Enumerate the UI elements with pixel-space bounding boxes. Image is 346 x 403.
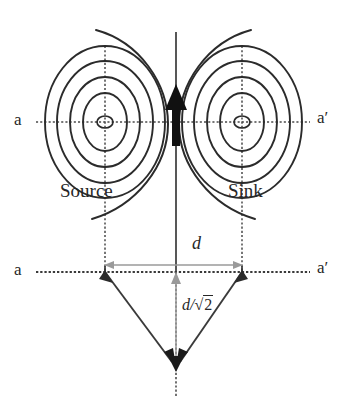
axis-label-left-top: a <box>14 110 22 130</box>
axis-label-right-top: a′ <box>317 108 328 128</box>
convergence-line-left <box>105 272 172 362</box>
radicand: 2 <box>203 295 213 313</box>
diagram-canvas: a a′ a a′ Source Sink d d/ √2 <box>0 0 346 403</box>
depth-dim-head <box>171 272 181 284</box>
depth-radical-group: √2 <box>194 296 213 314</box>
vertex-marker <box>168 356 184 372</box>
source-label: Source <box>60 180 113 202</box>
convergence-line-right <box>180 272 242 362</box>
axis-label-right-bottom: a′ <box>317 258 328 278</box>
sink-label: Sink <box>228 180 263 202</box>
convergence-lines <box>105 272 242 362</box>
diagram-svg <box>0 0 346 403</box>
flow-arrow-shaft <box>172 104 180 146</box>
radical-sign: √ <box>194 296 203 313</box>
convergence-head-right-top <box>234 270 248 283</box>
depth-numerator: d <box>182 296 190 313</box>
depth-label: d/ √2 <box>182 296 213 314</box>
separation-dimension-arrow <box>104 261 243 269</box>
separation-label: d <box>192 233 201 254</box>
axis-label-left-bottom: a <box>14 260 22 280</box>
